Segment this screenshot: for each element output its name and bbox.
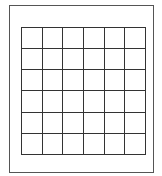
grid-cell[interactable] bbox=[125, 134, 146, 155]
grid-cell[interactable] bbox=[125, 49, 146, 70]
grid-cell[interactable] bbox=[84, 91, 105, 112]
grid-cell[interactable] bbox=[84, 49, 105, 70]
grid-cell[interactable] bbox=[63, 91, 84, 112]
grid-cell[interactable] bbox=[43, 28, 64, 49]
grid-cell[interactable] bbox=[22, 70, 43, 91]
grid-cell[interactable] bbox=[43, 70, 64, 91]
grid-cell[interactable] bbox=[105, 49, 126, 70]
grid-cell[interactable] bbox=[22, 134, 43, 155]
grid-cell[interactable] bbox=[43, 49, 64, 70]
grid-cell[interactable] bbox=[63, 49, 84, 70]
grid-cell[interactable] bbox=[84, 134, 105, 155]
grid-cell[interactable] bbox=[84, 28, 105, 49]
grid-cell[interactable] bbox=[43, 91, 64, 112]
grid-cell[interactable] bbox=[105, 113, 126, 134]
grid-cell[interactable] bbox=[63, 28, 84, 49]
grid-cell[interactable] bbox=[125, 28, 146, 49]
grid-cell[interactable] bbox=[22, 49, 43, 70]
grid-cell[interactable] bbox=[63, 134, 84, 155]
grid-cell[interactable] bbox=[22, 28, 43, 49]
grid-board bbox=[21, 27, 146, 155]
grid-cell[interactable] bbox=[105, 134, 126, 155]
grid-cell[interactable] bbox=[63, 70, 84, 91]
grid-cell[interactable] bbox=[125, 70, 146, 91]
grid-cell[interactable] bbox=[63, 113, 84, 134]
grid-cell[interactable] bbox=[43, 134, 64, 155]
grid-cell[interactable] bbox=[22, 113, 43, 134]
grid-cell[interactable] bbox=[105, 28, 126, 49]
grid-cell[interactable] bbox=[125, 91, 146, 112]
grid-cell[interactable] bbox=[22, 91, 43, 112]
grid-cell[interactable] bbox=[84, 113, 105, 134]
grid-cell[interactable] bbox=[105, 70, 126, 91]
grid-cell[interactable] bbox=[125, 113, 146, 134]
grid-cell[interactable] bbox=[105, 91, 126, 112]
grid-cell[interactable] bbox=[84, 70, 105, 91]
grid-cell[interactable] bbox=[43, 113, 64, 134]
